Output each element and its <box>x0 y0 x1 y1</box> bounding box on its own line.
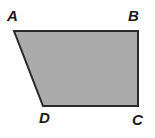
vertex-label-a: A <box>7 8 18 23</box>
geometry-figure: A B C D <box>0 0 155 138</box>
trapezoid-shape <box>14 31 138 106</box>
vertex-label-d: D <box>39 110 50 125</box>
vertex-label-c: C <box>132 112 143 127</box>
vertex-label-b: B <box>128 8 139 23</box>
